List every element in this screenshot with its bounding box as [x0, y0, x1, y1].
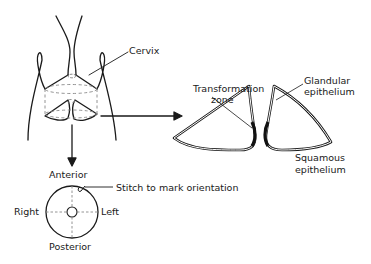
label-anterior: Anterior	[49, 169, 87, 180]
label-left: Left	[101, 206, 119, 217]
vagina-wall-left	[28, 53, 45, 140]
excision-top-ellipse	[45, 85, 97, 94]
upper-canal-left	[56, 16, 70, 75]
label-squamous-line1: Squamous	[295, 152, 345, 163]
transformation-zone-left	[252, 122, 255, 146]
excision-bottom-ellipse	[45, 110, 97, 118]
label-right: Right	[14, 206, 39, 217]
orientation-circle	[46, 186, 98, 238]
os-top	[68, 74, 76, 78]
transformation-zone-right	[265, 122, 268, 146]
upper-canal-right	[74, 16, 82, 75]
label-stitch: Stitch to mark orientation	[116, 182, 238, 193]
vagina-wall-right	[97, 53, 116, 140]
label-posterior: Posterior	[49, 241, 91, 252]
label-transformation-zone-line1: Transformation	[193, 83, 264, 94]
label-cervix: Cervix	[129, 45, 159, 56]
label-transformation-zone-line2: zone	[211, 94, 234, 105]
os-circle	[67, 207, 77, 217]
label-glandular-line1: Glandular	[304, 75, 350, 86]
cervix-diagram	[0, 0, 371, 264]
label-squamous-line2: epithelium	[295, 164, 346, 175]
cervix-cone	[45, 75, 97, 89]
label-glandular-line2: epithelium	[304, 86, 355, 97]
